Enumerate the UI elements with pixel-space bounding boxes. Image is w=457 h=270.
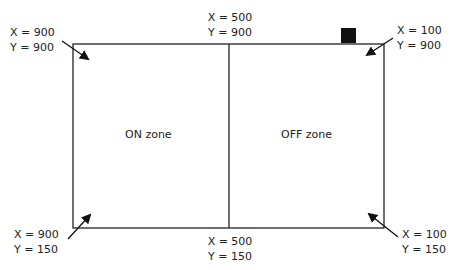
x-value: X = 900 — [10, 25, 55, 40]
arrow-bottom-left — [68, 215, 90, 239]
corner-bottom-left-label: X = 900 Y = 150 — [14, 227, 59, 257]
corner-bottom-middle-label: X = 500 Y = 150 — [204, 234, 256, 264]
x-value: X = 500 — [204, 10, 256, 25]
arrow-top-right — [367, 38, 393, 55]
x-value: X = 100 — [397, 23, 442, 38]
y-value: Y = 900 — [204, 25, 256, 40]
x-value: X = 900 — [14, 227, 59, 242]
y-value: Y = 150 — [14, 242, 59, 257]
on-zone-label: ON zone — [125, 128, 172, 141]
zone-diagram — [0, 0, 457, 270]
x-value: X = 500 — [204, 234, 256, 249]
off-zone-label: OFF zone — [281, 128, 332, 141]
y-value: Y = 150 — [204, 249, 256, 264]
x-value: X = 100 — [402, 227, 447, 242]
corner-top-right-label: X = 100 Y = 900 — [397, 23, 442, 53]
corner-top-left-label: X = 900 Y = 900 — [10, 25, 55, 55]
marker-square — [341, 28, 356, 43]
y-value: Y = 150 — [402, 242, 447, 257]
y-value: Y = 900 — [10, 40, 55, 55]
y-value: Y = 900 — [397, 38, 442, 53]
corner-bottom-right-label: X = 100 Y = 150 — [402, 227, 447, 257]
corner-top-middle-label: X = 500 Y = 900 — [204, 10, 256, 40]
